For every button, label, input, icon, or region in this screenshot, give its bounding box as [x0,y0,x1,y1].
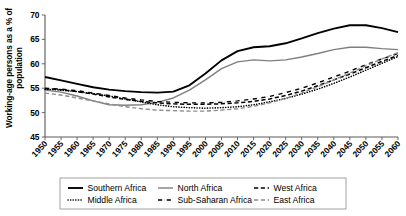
series-lines [45,25,398,111]
x-tick-label: 2020 [254,138,274,159]
y-tick-label: 65 [30,34,40,44]
x-tick-label: 2045 [334,138,354,159]
x-tick-label: 2025 [270,138,290,159]
x-tick-label: 2050 [350,138,370,159]
legend-label: Middle Africa [88,195,137,205]
x-tick-label: 2030 [286,138,306,159]
legend-label: Sub-Saharan Africa [178,195,253,205]
y-tick-label: 45 [30,132,40,142]
x-tick-label: 2010 [222,138,242,159]
x-tick-label: 2000 [190,138,210,159]
x-tick-label: 2060 [382,138,402,159]
legend-label: West Africa [274,183,318,193]
y-axis: 455055606570 [30,10,45,142]
series-line-southern-africa [45,25,398,92]
x-tick-label: 2005 [206,138,226,159]
y-tick-label: 70 [30,10,40,20]
series-line-middle-africa [45,56,398,108]
line-chart-plot: 455055606570 195019551960196519701975198… [0,0,406,216]
x-tick-label: 1955 [45,138,65,159]
x-tick-label: 2055 [366,138,386,159]
x-tick-label: 1980 [126,138,146,159]
x-tick-label: 1970 [94,138,114,159]
x-tick-label: 1990 [158,138,178,159]
x-tick-label: 1965 [78,138,98,159]
x-tick-label: 2040 [318,138,338,159]
x-tick-label: 1960 [62,138,82,159]
x-axis: 1950195519601965197019751980198519901995… [29,137,402,159]
x-tick-label: 2015 [238,138,258,159]
series-line-west-africa [45,56,398,105]
x-tick-label: 1985 [142,138,162,159]
series-line-north-africa [45,47,398,105]
chart-legend: Southern AfricaNorth AfricaWest AfricaMi… [60,178,346,209]
x-tick-label: 1995 [174,138,194,159]
chart-figure: Working-age persons as a % of population… [0,0,406,216]
y-tick-label: 55 [30,83,40,93]
y-tick-label: 60 [30,59,40,69]
y-axis-label: Working-age persons as a % of population [0,2,28,134]
legend-label: East Africa [274,195,315,205]
y-tick-label: 50 [30,108,40,118]
x-tick-label: 1975 [110,138,130,159]
x-tick-label: 2035 [302,138,322,159]
legend-label: North Africa [178,183,223,193]
legend-label: Southern Africa [88,183,147,193]
